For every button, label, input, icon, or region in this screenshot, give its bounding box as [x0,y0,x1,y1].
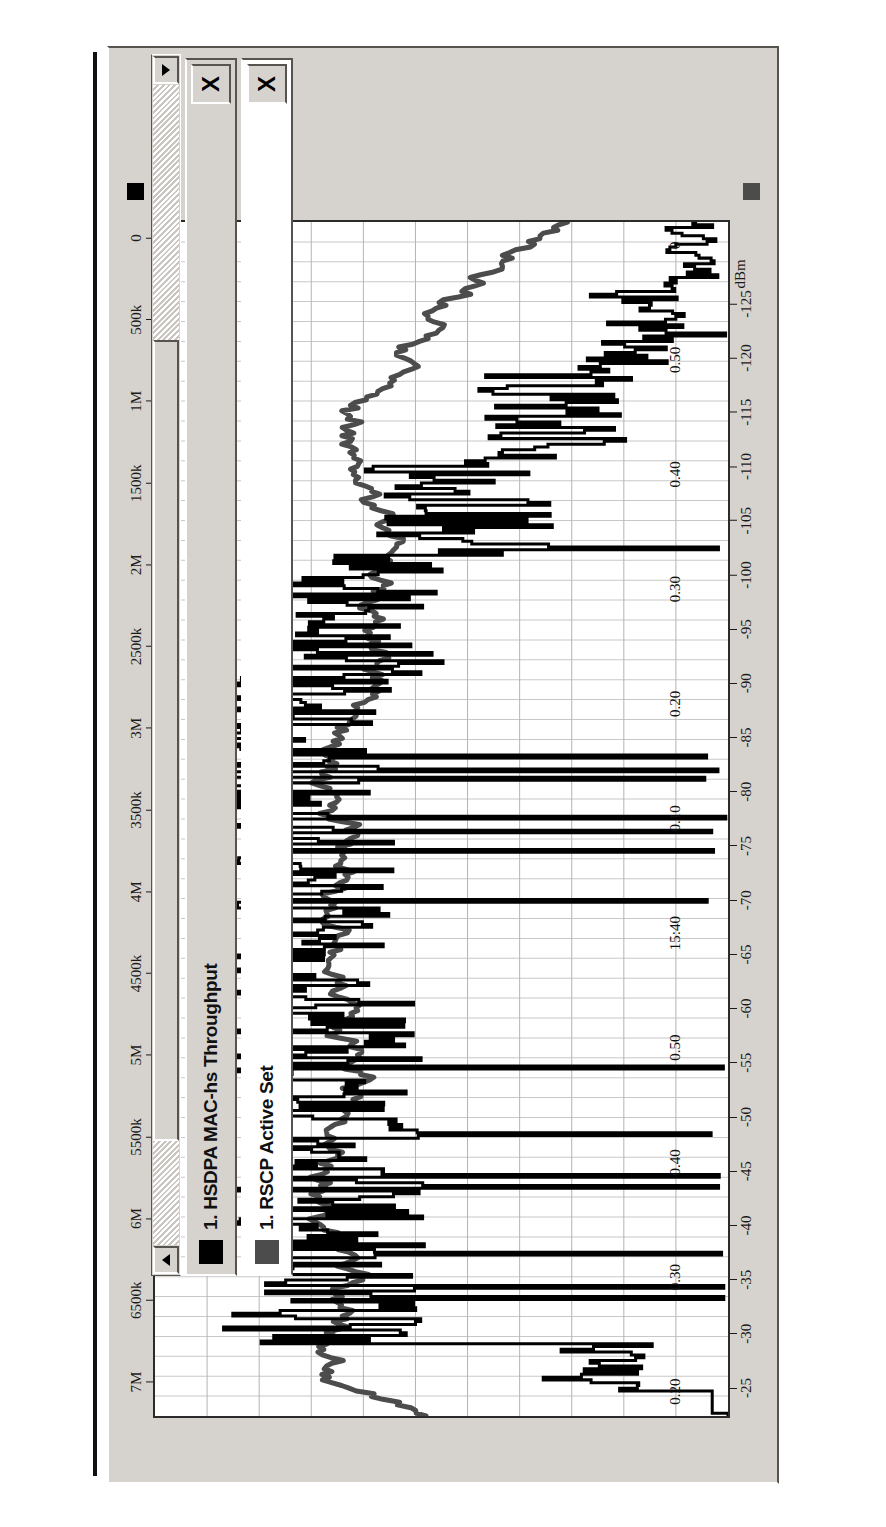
rscp-tick-neg60: -60 [730,998,755,1018]
screenshot-page: 7M6500k6M5500k5M4500k4M3500k3M2500k2M150… [0,0,886,1527]
time-tick-0-40: 0.40 [667,1149,684,1175]
legend-label-rscp: 1. RSCP Active Set [256,1065,278,1230]
time-tick-0-50: 0.50 [667,346,684,372]
time-tick-0: 0 [667,241,684,249]
throughput-tick-3M: 3M [128,717,153,738]
scrollbar-thumb[interactable] [153,340,179,1140]
vertical-scrollbar[interactable] [151,54,181,1276]
scrollbar-track[interactable] [153,85,179,1245]
throughput-tick-500k: 500k [128,304,153,334]
rotated-canvas: 7M6500k6M5500k5M4500k4M3500k3M2500k2M150… [0,0,886,1527]
rscp-tick-neg35: -35 [730,1269,755,1289]
rscp-tick-neg115: -115 [730,398,755,425]
throughput-tick-1M: 1M [128,391,153,412]
legend-label-throughput: 1. HSDPA MAC-hs Throughput [200,963,222,1230]
triangle-up-icon [162,1254,170,1266]
rscp-axis: -25-30-35-40-45-50-55-60-65-70-75-80-85-… [730,220,770,1418]
rscp-tick-neg70: -70 [730,890,755,910]
throughput-tick-0: 0 [128,234,153,242]
throughput-tick-6M: 6M [128,1208,153,1229]
time-tick-0-20: 0.20 [667,690,684,716]
throughput-tick-6500k: 6500k [128,1281,153,1319]
rscp-axis-marker [743,183,760,200]
throughput-axis: 7M6500k6M5500k5M4500k4M3500k3M2500k2M150… [115,220,153,1418]
rscp-tick-neg55: -55 [730,1052,755,1072]
throughput-tick-3500k: 3500k [128,791,153,829]
chart-window-upright: 7M6500k6M5500k5M4500k4M3500k3M2500k2M150… [93,34,793,1494]
chart-window: 7M6500k6M5500k5M4500k4M3500k3M2500k2M150… [107,46,779,1484]
triangle-down-icon [162,64,170,76]
rscp-tick-neg65: -65 [730,944,755,964]
throughput-axis-marker [127,183,144,200]
legend-close-button-rscp[interactable]: X [247,64,287,104]
chart-window-client: 7M6500k6M5500k5M4500k4M3500k3M2500k2M150… [111,50,775,1480]
throughput-tick-4500k: 4500k [128,954,153,992]
legend-swatch-rscp [255,1240,279,1264]
time-tick-0-10: 0.10 [667,805,684,831]
rscp-tick-neg75: -75 [730,835,755,855]
rscp-tick-neg80: -80 [730,781,755,801]
time-tick-0-30: 0.30 [667,1263,684,1289]
throughput-tick-7M: 7M [128,1371,153,1392]
legend-swatch-throughput [199,1240,223,1264]
throughput-tick-5500k: 5500k [128,1118,153,1156]
throughput-tick-1500k: 1500k [128,464,153,502]
throughput-tick-4M: 4M [128,881,153,902]
rscp-tick-neg105: -105 [730,506,755,534]
time-tick-15-40: 15:40 [667,915,684,949]
throughput-tick-5M: 5M [128,1044,153,1065]
rscp-tick-neg95: -95 [730,619,755,639]
page-edge-rule [93,52,97,1476]
scroll-down-button[interactable] [153,56,179,84]
rscp-tick-neg110: -110 [730,453,755,480]
rscp-tick-neg30: -30 [730,1323,755,1343]
rscp-tick-neg125: -125 [730,290,755,318]
legend-panel: 1. HSDPA MAC-hs Throughput X 1. RSCP Act… [185,54,305,1276]
scroll-up-button[interactable] [153,1246,179,1274]
rscp-tick-neg120: -120 [730,344,755,372]
rscp-tick-neg85: -85 [730,727,755,747]
rscp-tick-neg25: -25 [730,1378,755,1398]
rscp-tick-neg40: -40 [730,1215,755,1235]
rscp-tick-neg100: -100 [730,561,755,589]
time-tick-0-30: 0.30 [667,575,684,601]
rscp-tick-neg90: -90 [730,673,755,693]
throughput-tick-2M: 2M [128,554,153,575]
time-tick-0-50: 0.50 [667,1034,684,1060]
rscp-axis-unit: dBm [732,259,749,288]
time-tick-0-20: 0.20 [667,1378,684,1404]
throughput-tick-2500k: 2500k [128,627,153,665]
legend-close-button-throughput[interactable]: X [191,64,231,104]
rscp-tick-neg45: -45 [730,1161,755,1181]
rscp-tick-neg50: -50 [730,1107,755,1127]
time-tick-0-40: 0.40 [667,461,684,487]
legend-item-throughput[interactable]: 1. HSDPA MAC-hs Throughput X [185,58,237,1276]
legend-item-rscp[interactable]: 1. RSCP Active Set X [241,58,293,1276]
